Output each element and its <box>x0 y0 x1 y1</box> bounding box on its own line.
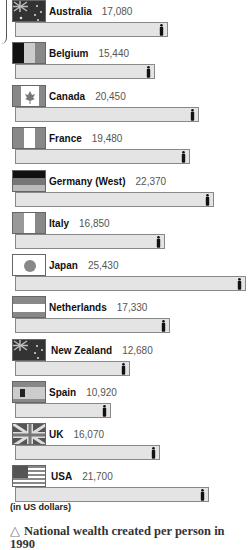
person-icon <box>200 489 205 501</box>
spain-flag-icon <box>12 381 46 403</box>
row-germany: Germany (West)22,370 <box>0 170 248 214</box>
person-icon <box>159 24 164 36</box>
canada-flag-icon <box>12 85 46 107</box>
person-icon <box>237 278 242 290</box>
new-zealand-flag-icon <box>12 339 46 361</box>
value-bar <box>15 234 165 249</box>
value-bar <box>15 318 170 333</box>
person-icon <box>181 151 186 163</box>
japan-flag-icon <box>12 254 46 276</box>
country-label: Australia17,080 <box>49 6 132 17</box>
value-label: 16,850 <box>79 218 110 229</box>
value-bar <box>15 445 160 460</box>
row-italy: Italy16,850 <box>0 212 248 256</box>
country-label: USA21,700 <box>51 471 113 482</box>
france-flag-icon <box>12 127 46 149</box>
value-label: 16,070 <box>73 429 104 440</box>
person-icon <box>121 363 126 375</box>
value-bar <box>15 64 155 79</box>
value-label: 19,480 <box>92 133 123 144</box>
value-label: 10,920 <box>86 387 117 398</box>
person-icon <box>146 66 151 78</box>
row-japan: Japan25,430 <box>0 254 248 298</box>
value-label: 15,440 <box>98 48 129 59</box>
person-icon <box>190 109 195 121</box>
row-netherlands: Netherlands17,330 <box>0 296 248 340</box>
australia-flag-icon <box>12 0 46 22</box>
person-icon <box>102 405 107 417</box>
country-label: Netherlands17,330 <box>49 302 147 313</box>
row-spain: Spain10,920 <box>0 381 248 425</box>
caption-text: National wealth created per person in 19… <box>10 524 225 550</box>
country-label: France19,480 <box>49 133 122 144</box>
triangle-icon: △ <box>10 524 20 538</box>
value-bar <box>15 107 199 122</box>
country-label: Spain10,920 <box>49 387 117 398</box>
value-label: 22,370 <box>136 176 167 187</box>
value-label: 12,680 <box>122 345 153 356</box>
row-new-zealand: New Zealand12,680 <box>0 339 248 383</box>
row-canada: Canada20,450 <box>0 85 248 129</box>
row-france: France19,480 <box>0 127 248 171</box>
row-belgium: Belgium15,440 <box>0 42 248 86</box>
row-australia: Australia17,080 <box>0 0 248 44</box>
country-label: New Zealand12,680 <box>51 345 153 356</box>
germany-flag-icon <box>12 170 46 192</box>
value-bar <box>15 361 130 376</box>
value-bar <box>15 149 190 164</box>
value-label: 25,430 <box>88 260 119 271</box>
row-uk: UK16,070 <box>0 423 248 467</box>
value-label: 17,080 <box>102 6 133 17</box>
value-bar <box>15 487 209 502</box>
belgium-flag-icon <box>12 42 46 64</box>
country-label: UK16,070 <box>49 429 104 440</box>
value-label: 17,330 <box>117 302 148 313</box>
country-label: Canada20,450 <box>49 91 126 102</box>
value-bar <box>15 403 111 418</box>
person-icon <box>205 194 210 206</box>
uk-flag-icon <box>12 423 46 445</box>
value-bar <box>15 276 246 291</box>
usa-flag-icon <box>12 465 46 487</box>
value-label: 21,700 <box>82 471 113 482</box>
country-label: Japan25,430 <box>49 260 119 271</box>
person-icon <box>161 320 166 332</box>
italy-flag-icon <box>12 212 46 234</box>
country-label: Germany (West)22,370 <box>49 176 166 187</box>
value-label: 20,450 <box>95 91 126 102</box>
unit-note: (in US dollars) <box>10 502 71 512</box>
value-bar <box>15 192 214 207</box>
person-icon <box>151 447 156 459</box>
netherlands-flag-icon <box>12 296 46 318</box>
country-label: Italy16,850 <box>49 218 110 229</box>
figure-caption: △National wealth created per person in 1… <box>10 525 240 550</box>
country-label: Belgium15,440 <box>49 48 129 59</box>
person-icon <box>156 236 161 248</box>
value-bar <box>15 22 168 37</box>
